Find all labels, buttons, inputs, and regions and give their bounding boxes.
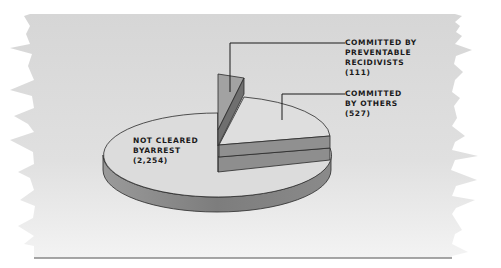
pie-chart: [0, 0, 501, 268]
label-not-cleared-line2: byarrest: [133, 146, 198, 156]
label-others-line1: Committed: [345, 89, 402, 99]
label-not-cleared-value: (2,254): [133, 156, 198, 166]
label-recidivists-line2: preventable: [345, 48, 417, 58]
chart-panel: Committed by preventable recidivists (11…: [0, 0, 501, 268]
label-recidivists-line1: Committed by: [345, 38, 417, 48]
label-not-cleared-line1: Not cleared: [133, 136, 198, 146]
label-others: Committed by others (527): [345, 89, 402, 119]
label-others-line2: by others: [345, 99, 402, 109]
label-recidivists-value: (111): [345, 68, 417, 78]
label-recidivists: Committed by preventable recidivists (11…: [345, 38, 417, 78]
label-recidivists-line3: recidivists: [345, 58, 417, 68]
label-others-value: (527): [345, 109, 402, 119]
label-not-cleared: Not cleared byarrest (2,254): [133, 136, 198, 166]
